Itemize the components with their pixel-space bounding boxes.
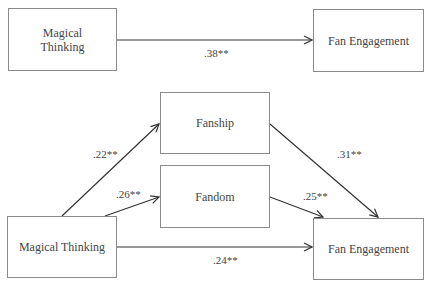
node-label: Fandom xyxy=(195,190,234,204)
coef-fandom-fe: .25** xyxy=(303,190,328,202)
coef-mt-fandom: .26** xyxy=(116,188,141,200)
coef-total-effect: .38** xyxy=(204,47,229,59)
node-fan-engagement-a: Fan Engagement xyxy=(313,9,424,72)
coef-mt-fanship: .22** xyxy=(93,148,118,160)
node-label: Magical Thinking xyxy=(19,240,105,254)
node-label: Magical Thinking xyxy=(33,26,93,54)
node-magical-thinking-a: Magical Thinking xyxy=(8,8,117,71)
node-label: Fanship xyxy=(196,116,234,130)
coef-direct-effect: .24** xyxy=(213,254,238,266)
node-fan-engagement-b: Fan Engagement xyxy=(313,218,424,280)
coef-fanship-fe: .31** xyxy=(337,148,362,160)
node-fandom: Fandom xyxy=(160,165,270,228)
node-label: Fan Engagement xyxy=(328,242,409,256)
node-magical-thinking-b: Magical Thinking xyxy=(7,216,117,278)
node-fanship: Fanship xyxy=(160,92,270,154)
node-label: Fan Engagement xyxy=(328,34,409,48)
